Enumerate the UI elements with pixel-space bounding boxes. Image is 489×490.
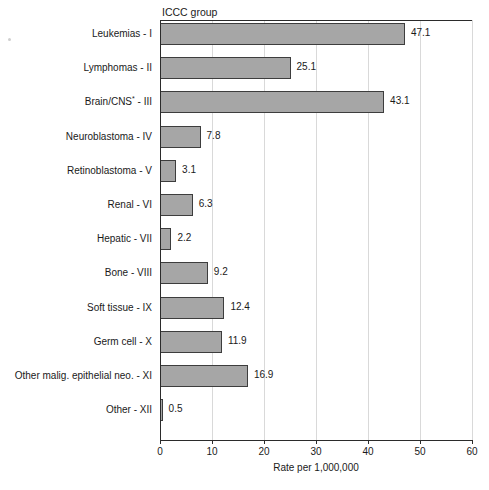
bar[interactable] (160, 365, 248, 387)
bar[interactable] (160, 160, 176, 182)
bar[interactable] (160, 228, 171, 250)
bar-row[interactable]: 11.9 (160, 331, 472, 365)
bar[interactable] (160, 331, 222, 353)
y-axis-line (160, 20, 161, 441)
bar-row[interactable]: 16.9 (160, 365, 472, 399)
footnote-asterisk: * (132, 95, 135, 102)
x-tick-mark (160, 440, 161, 444)
bar[interactable] (160, 262, 208, 284)
bar-row[interactable]: 6.3 (160, 194, 472, 228)
gridline (472, 20, 473, 440)
bar-chart: ICCC group 47.125.143.17.83.16.32.29.212… (0, 0, 489, 490)
plot-area: 47.125.143.17.83.16.32.29.212.411.916.90… (160, 20, 472, 440)
x-tick-mark (316, 440, 317, 444)
plot-group-heading: ICCC group (162, 6, 217, 18)
bar[interactable] (160, 297, 224, 319)
bar-value-label: 3.1 (182, 164, 196, 175)
bar-row[interactable]: 12.4 (160, 297, 472, 331)
bar-row[interactable]: 7.8 (160, 126, 472, 160)
category-label: Other - XII (0, 404, 156, 415)
bar-value-label: 12.4 (230, 301, 249, 312)
x-tick-mark (420, 440, 421, 444)
category-label: Bone - VIII (0, 267, 156, 278)
bar[interactable] (160, 57, 291, 79)
category-label: Germ cell - X (0, 336, 156, 347)
category-label: Retinoblastoma - V (0, 165, 156, 176)
bar-value-label: 25.1 (297, 61, 316, 72)
bar-value-label: 47.1 (411, 27, 430, 38)
bar[interactable] (160, 23, 405, 45)
bar-row[interactable]: 9.2 (160, 262, 472, 296)
bar-row[interactable]: 47.1 (160, 23, 472, 57)
x-tick-label: 20 (258, 446, 269, 457)
bar-value-label: 2.2 (177, 232, 191, 243)
bar-row[interactable]: 0.5 (160, 399, 472, 433)
bar-value-label: 6.3 (199, 198, 213, 209)
bar-value-label: 43.1 (390, 95, 409, 106)
x-tick-label: 40 (362, 446, 373, 457)
bar-value-label: 0.5 (169, 403, 183, 414)
category-label: Soft tissue - IX (0, 302, 156, 313)
category-label: Leukemias - I (0, 28, 156, 39)
bar[interactable] (160, 194, 193, 216)
x-tick-label: 50 (414, 446, 425, 457)
bar[interactable] (160, 91, 384, 113)
bar-value-label: 11.9 (228, 335, 247, 346)
bar[interactable] (160, 126, 201, 148)
category-label: Renal - VI (0, 199, 156, 210)
bar-value-label: 16.9 (254, 369, 273, 380)
category-label: Other malig. epithelial neo. - XI (0, 370, 156, 381)
bar-row[interactable]: 43.1 (160, 91, 472, 125)
x-tick-label: 60 (466, 446, 477, 457)
x-tick-mark (264, 440, 265, 444)
x-tick-mark (472, 440, 473, 444)
x-tick-label: 30 (310, 446, 321, 457)
bar-row[interactable]: 3.1 (160, 160, 472, 194)
x-tick-mark (368, 440, 369, 444)
bar-value-label: 7.8 (207, 130, 221, 141)
category-label: Lymphomas - II (0, 62, 156, 73)
plot-top-rule (160, 20, 472, 21)
x-tick-mark (212, 440, 213, 444)
bar-row[interactable]: 2.2 (160, 228, 472, 262)
x-tick-label: 10 (206, 446, 217, 457)
x-axis-title: Rate per 1,000,000 (160, 462, 472, 473)
bar-value-label: 9.2 (214, 266, 228, 277)
x-tick-label: 0 (157, 446, 163, 457)
bar-row[interactable]: 25.1 (160, 57, 472, 91)
category-label: Brain/CNS* - III (0, 96, 156, 107)
category-label: Neuroblastoma - IV (0, 131, 156, 142)
category-label: Hepatic - VII (0, 233, 156, 244)
